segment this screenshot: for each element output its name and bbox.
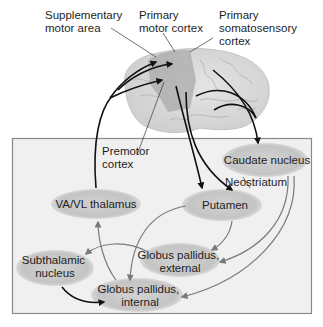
label-primary-somatosensory-cortex: Primary somatosensory cortex xyxy=(219,9,300,47)
label-neostriatum: Neostriatum xyxy=(225,176,287,188)
label-caudate-nucleus: Caudate nucleus xyxy=(224,154,311,166)
label-va-vl-thalamus: VA/VL thalamus xyxy=(55,198,136,210)
label-supplementary-motor-area: Supplementary motor area xyxy=(45,9,126,34)
label-primary-motor-cortex: Primary motor cortex xyxy=(139,9,203,34)
brain-illustration xyxy=(125,49,270,133)
label-putamen: Putamen xyxy=(202,199,248,211)
basal-ganglia-diagram: Supplementary motor area Primary motor c… xyxy=(0,0,323,327)
